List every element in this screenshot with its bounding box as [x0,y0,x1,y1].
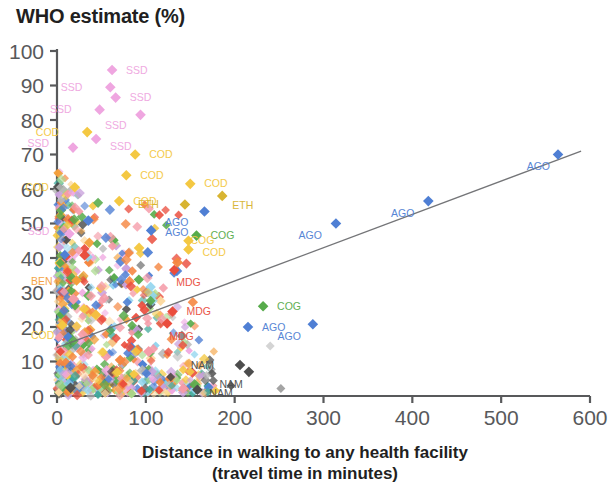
data-point [99,244,108,253]
x-tick-label: 100 [128,406,163,429]
y-tick-label: 40 [21,247,44,270]
x-axis-label: Distance in walking to any health facili… [0,443,610,484]
data-point [93,239,102,248]
x-axis-label-line1: Distance in walking to any health facili… [142,443,468,462]
y-tick-label: 90 [21,74,44,97]
labelled-data-point [107,65,118,76]
labelled-data-point [217,191,228,202]
data-point [136,261,145,270]
point-label: MDG [169,330,194,342]
x-tick-label: 400 [395,406,430,429]
data-point [105,266,114,275]
data-point [147,234,157,244]
point-label: SSD [110,140,132,152]
labelled-data-point [331,218,342,229]
labelled-data-point [121,170,132,181]
labelled-data-point [68,142,79,153]
data-point [155,210,164,219]
y-tick-label: 100 [9,40,44,63]
data-point [210,347,218,355]
labelled-data-point [185,179,196,190]
point-label: COD [140,169,164,181]
labelled-data-point [94,104,105,115]
data-point [80,201,89,210]
data-point [113,302,122,311]
labelled-data-point [91,134,102,145]
point-label: COG [190,234,214,246]
point-label: NAM [191,359,214,371]
data-point [121,219,131,229]
labelled-data-point [105,82,116,93]
x-axis-label-line2: (travel time in minutes) [0,464,610,485]
labelled-data-point [308,319,319,330]
x-tick-label: 200 [217,406,252,429]
data-point [93,232,102,241]
labelled-data-point [258,301,269,312]
point-label: MDG [186,305,211,317]
point-label: AGO [277,330,300,342]
x-tick-label: 500 [484,406,519,429]
point-label: SSD [126,64,148,76]
point-label: SSD [130,91,152,103]
point-label: COD [36,126,60,138]
labelled-data-point [82,127,93,138]
data-point [181,259,191,269]
point-label: AGO [391,207,414,219]
point-label: COD [202,246,226,258]
point-label: COD [31,329,55,341]
data-point [154,263,163,272]
point-label: BEN [31,275,53,287]
point-label: ETH [138,198,159,210]
point-label: AGO [165,216,188,228]
point-label: SSD [28,225,50,237]
point-label: SSD [27,137,49,149]
labelled-data-point [110,92,121,103]
y-tick-label: 0 [32,385,44,408]
data-point [132,222,142,232]
labelled-data-point [244,367,255,378]
point-label: COG [277,300,301,312]
chart-root: WHO estimate (%) 01020304050607080901000… [0,0,610,490]
x-tick-label: 0 [51,406,63,429]
labelled-data-point [423,196,434,207]
labelled-data-point [243,322,254,333]
point-label: COD [204,177,228,189]
labelled-data-point [180,199,191,210]
labelled-data-point [235,360,246,371]
data-point [105,205,115,215]
data-point [99,254,107,262]
point-label: SSD [50,103,72,115]
point-label: MDG [176,276,201,288]
point-label: ETH [232,199,253,211]
point-label: COD [149,148,173,160]
x-tick-label: 300 [306,406,341,429]
data-point [142,247,153,258]
labelled-data-point [135,110,146,121]
scatter-plot: 0102030405060708090100010020030040050060… [0,0,610,490]
data-point [194,336,203,345]
labelled-data-point [114,196,125,207]
data-point [266,341,275,350]
point-label: NAM [209,387,232,399]
point-label: SSD [105,119,127,131]
x-tick-label: 600 [572,406,607,429]
data-point [276,384,285,393]
point-label: SSD [61,81,83,93]
data-point [161,206,170,215]
point-labels-layer: SSDSSDSSDSSDSSDSSDSSDSSDCODCODCODCODCODC… [25,64,563,400]
point-label: AGO [299,229,322,241]
point-label: COD [25,181,49,193]
labelled-data-point [199,206,210,217]
point-label: AGO [527,160,550,172]
data-point [124,205,133,214]
y-tick-label: 10 [21,350,44,373]
data-point [159,283,168,292]
data-point [134,274,144,284]
